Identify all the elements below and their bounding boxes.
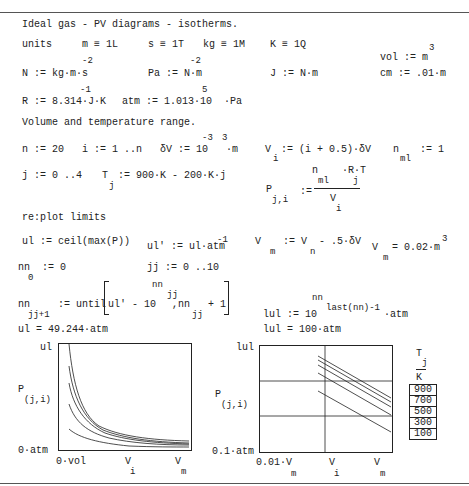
- right-plot-xmid: V: [329, 458, 335, 468]
- right-plot-curves: [260, 346, 392, 452]
- lul-exp-sub: last(nn)-1: [326, 303, 380, 313]
- until-exp: nn: [152, 280, 163, 290]
- left-plot-xleft: 0·vol: [56, 457, 86, 467]
- atm-exp: 5: [202, 85, 207, 95]
- until-arg1: ul' - 10: [108, 300, 156, 310]
- right-plot-xmid-sub: i: [334, 469, 339, 479]
- right-plot-ytop: lul: [236, 343, 254, 353]
- lul-unit: ·atm: [384, 310, 408, 320]
- def-Pa: Pa := N·m: [148, 69, 202, 79]
- def-nn0-sub: 0: [28, 273, 33, 283]
- left-plot-ylabel-sub: (j,i): [24, 395, 51, 405]
- left-plot-xright-sub: m: [181, 467, 186, 477]
- dV-exp2: 3: [222, 133, 227, 143]
- right-plot-xright-sub: m: [380, 469, 385, 479]
- right-plot-ylabel: P: [215, 390, 221, 400]
- R-exp: -1: [80, 85, 91, 95]
- def-Vm-rhs: := V - .5·δV: [283, 237, 361, 247]
- until-arg2-sub: jj: [192, 310, 203, 320]
- def-jj: jj := 0 ..10: [147, 263, 219, 273]
- dV-exp1: -3: [202, 133, 213, 143]
- def-nml-lhs: n: [393, 145, 399, 155]
- legend-value: 300: [410, 418, 437, 429]
- right-plot-xleft: 0.01·V: [256, 458, 292, 468]
- def-P-lhs: P: [266, 185, 272, 195]
- until-arg2: ,nn + 1: [172, 300, 226, 310]
- def-P-assign: :=: [300, 187, 312, 197]
- right-plot-ylabel-sub: (j,i): [221, 400, 248, 410]
- def-J: J := N·m: [270, 69, 318, 79]
- def-n: n := 20: [22, 145, 64, 155]
- eval-lul: lul = 100·atm: [263, 325, 341, 335]
- def-lul: lul := 10: [263, 310, 317, 320]
- def-K: K ≡ 1Q: [270, 40, 306, 50]
- left-pv-plot[interactable]: [58, 343, 192, 451]
- right-pv-plot[interactable]: [259, 345, 393, 453]
- def-ul: ul := ceil(max(P)): [22, 237, 130, 247]
- right-plot-ybottom: 0.1·atm: [212, 447, 254, 457]
- def-P-sub: j,i: [272, 195, 288, 205]
- legend-table: 900 700 500 300 100: [409, 384, 437, 440]
- def-dV: δV := 10 ·m: [160, 145, 238, 155]
- eval-Vm-rhs: = 0.02·m: [392, 243, 440, 253]
- def-vol: vol := m: [380, 53, 428, 63]
- section-range-heading: Volume and temperature range.: [22, 118, 196, 128]
- def-i: i := 1 ..n: [82, 145, 142, 155]
- eval-Vm-lhs: V: [372, 243, 378, 253]
- eval-Vm-exp: 3: [442, 234, 447, 244]
- def-nnjj-lhs: nn: [18, 300, 30, 310]
- legend-value: 700: [410, 396, 437, 407]
- def-s: s ≡ 1T: [148, 40, 184, 50]
- N-exp: -2: [82, 56, 93, 66]
- section-limits-heading: re:plot limits: [22, 213, 106, 223]
- Pa-exp: -2: [190, 56, 201, 66]
- left-plot-curves: [59, 344, 191, 450]
- def-Vm-sub: m: [270, 247, 275, 257]
- def-nnjj-sub: jj+1: [28, 310, 50, 320]
- def-nml-sub: ml: [400, 154, 411, 164]
- lul-exp: nn: [312, 293, 323, 303]
- left-plot-ytop: ul: [40, 343, 52, 353]
- def-Vm-lhs: V: [255, 237, 261, 247]
- def-P-num-sub2: j: [353, 176, 358, 186]
- legend-value: 100: [410, 429, 437, 440]
- eval-Vm-sub: m: [383, 253, 388, 263]
- units-label: units: [22, 40, 52, 50]
- def-Vi-lhs: V: [265, 145, 271, 155]
- eval-ul: ul = 49.244·atm: [18, 325, 108, 335]
- fraction-line: [314, 188, 360, 189]
- def-kg: kg ≡ 1M: [203, 40, 245, 50]
- def-Vi-rhs: := (i + 0.5)·δV: [281, 145, 371, 155]
- def-cm: cm := .01·m: [380, 69, 446, 79]
- left-plot-ybottom: 0·atm: [18, 446, 48, 456]
- vol-exp: 3: [429, 43, 434, 53]
- def-Tj-sub: j: [109, 181, 114, 191]
- legend-value: 500: [410, 407, 437, 418]
- legend-unit: K: [416, 373, 422, 383]
- def-Vi-sub: i: [273, 154, 278, 164]
- def-nn0: nn: [18, 263, 30, 273]
- def-N: N := kg·m·s: [22, 69, 88, 79]
- left-plot-ylabel: P: [18, 385, 24, 395]
- right-plot-xright: V: [374, 458, 380, 468]
- def-j: j := 0 ..4: [22, 171, 82, 181]
- def-m: m ≡ 1L: [82, 40, 118, 50]
- def-P-num: n ·R·T: [312, 166, 366, 176]
- legend-divider: [416, 369, 426, 370]
- def-Tj-rhs: := 900·K - 200·K·j: [118, 171, 226, 181]
- def-atm: atm := 1.013·10 ·Pa: [122, 97, 242, 107]
- def-Vm-rhs-sub: n: [310, 247, 315, 257]
- left-plot-xright: V: [175, 457, 181, 467]
- legend-value: 900: [410, 385, 437, 396]
- right-plot-xleft-sub: m: [291, 469, 296, 479]
- def-R: R := 8.314·J·K: [22, 97, 106, 107]
- def-Tj-lhs: T: [102, 171, 108, 181]
- def-until: := until: [58, 300, 106, 310]
- top-rule: [0, 12, 469, 13]
- left-plot-xmid: V: [125, 457, 131, 467]
- page-title: Ideal gas - PV diagrams - isotherms.: [22, 20, 238, 30]
- bottom-rule: [0, 483, 469, 484]
- left-plot-xmid-sub: i: [130, 467, 135, 477]
- def-P-num-sub1: ml: [318, 176, 329, 186]
- def-ulp: ul' := ul·atm: [147, 242, 225, 252]
